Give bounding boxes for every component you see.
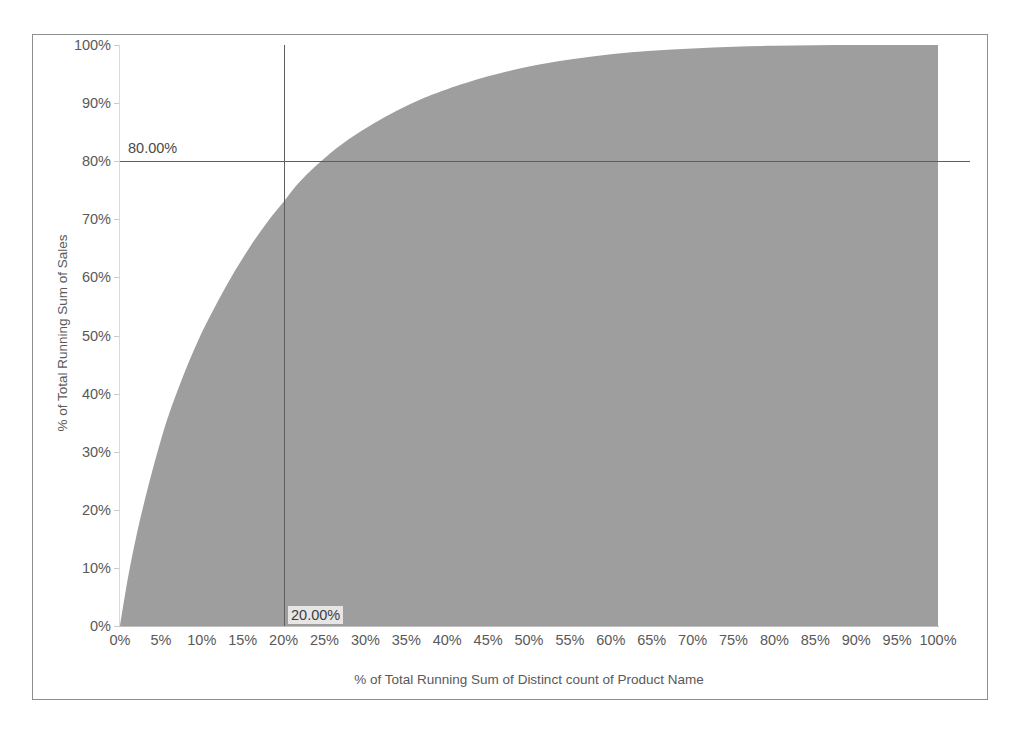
x-axis-tick-label: 85% — [801, 632, 830, 648]
x-axis-tick-label: 20% — [269, 632, 298, 648]
reference-line-vertical-label: 20.00% — [288, 606, 343, 624]
x-axis-tick-label: 35% — [392, 632, 421, 648]
reference-line-vertical — [284, 45, 285, 626]
x-axis-tick-label: 60% — [596, 632, 625, 648]
x-axis-tick-label: 25% — [310, 632, 339, 648]
x-axis-tick-label: 75% — [719, 632, 748, 648]
reference-line-horizontal — [120, 161, 970, 162]
x-axis-tick-label: 5% — [150, 632, 171, 648]
x-axis-tick-group: 0%5%10%15%20%25%30%35%40%45%50%55%60%65%… — [0, 0, 1014, 733]
x-axis-tick-label: 40% — [433, 632, 462, 648]
x-axis-tick-label: 95% — [883, 632, 912, 648]
x-axis-tick-label: 80% — [760, 632, 789, 648]
x-axis-tick-label: 90% — [842, 632, 871, 648]
reference-line-horizontal-label: 80.00% — [126, 140, 179, 156]
x-axis-tick-label: 0% — [110, 632, 131, 648]
x-axis-tick-label: 10% — [187, 632, 216, 648]
x-axis-tick-label: 30% — [351, 632, 380, 648]
x-axis-tick-label: 65% — [637, 632, 666, 648]
x-axis-tick-label: 100% — [919, 632, 956, 648]
x-axis-title: % of Total Running Sum of Distinct count… — [120, 672, 938, 687]
x-axis-tick-label: 15% — [228, 632, 257, 648]
x-axis-tick-label: 45% — [474, 632, 503, 648]
x-axis-tick-label: 50% — [514, 632, 543, 648]
x-axis-tick-label: 55% — [555, 632, 584, 648]
pareto-chart: % of Total Running Sum of Sales 0%10%20%… — [0, 0, 1014, 733]
x-axis-tick-label: 70% — [678, 632, 707, 648]
